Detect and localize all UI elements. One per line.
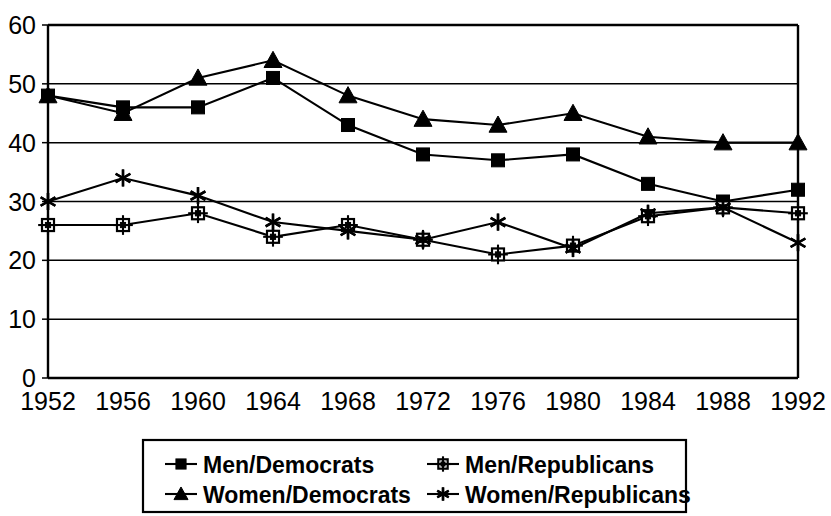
data-point <box>791 234 806 251</box>
marker-filled-square <box>567 148 580 161</box>
marker-filled-square <box>642 177 655 190</box>
data-point <box>264 51 282 67</box>
data-point <box>792 183 805 196</box>
x-tick-label: 1960 <box>170 387 226 415</box>
marker-filled-square <box>342 119 355 132</box>
marker-filled-square <box>267 71 280 84</box>
marker-star <box>491 214 506 231</box>
x-tick-label: 1964 <box>245 387 301 415</box>
marker-filled-square <box>792 183 805 196</box>
y-tick-label: 20 <box>8 246 36 274</box>
series-line <box>48 60 798 142</box>
data-point <box>339 87 357 103</box>
marker-star <box>116 169 131 186</box>
marker-filled-square <box>176 459 186 469</box>
marker-open-square-dot <box>435 456 450 471</box>
y-tick-label: 50 <box>8 70 36 98</box>
data-point <box>642 177 655 190</box>
marker-filled-square <box>492 154 505 167</box>
line-chart-svg: 0102030405060 19521956196019641968197219… <box>0 0 831 516</box>
data-point <box>491 214 506 231</box>
marker-open-square-dot <box>188 203 208 223</box>
x-tick-label: 1956 <box>95 387 151 415</box>
x-tick-label: 1972 <box>395 387 451 415</box>
data-point <box>267 71 280 84</box>
series-women-republicans <box>41 169 806 257</box>
x-tick-label: 1952 <box>20 387 76 415</box>
chart-container: 0102030405060 19521956196019641968197219… <box>0 0 831 516</box>
data-point <box>492 154 505 167</box>
y-tick-label: 30 <box>8 188 36 216</box>
marker-open-square-dot <box>488 245 508 265</box>
marker-open-square-dot <box>788 203 808 223</box>
marker-open-square-dot <box>113 215 133 235</box>
marker-filled-square <box>192 101 205 114</box>
data-point <box>38 215 58 235</box>
data-point <box>564 104 582 120</box>
marker-filled-square <box>417 148 430 161</box>
data-point <box>788 203 808 223</box>
x-tick-label: 1992 <box>770 387 826 415</box>
marker-filled-triangle <box>264 51 282 67</box>
x-tick-label: 1988 <box>695 387 751 415</box>
legend-label: Women/Republicans <box>465 482 691 508</box>
x-tick-label: 1984 <box>620 387 676 415</box>
marker-filled-triangle <box>564 104 582 120</box>
x-tick-label: 1980 <box>545 387 601 415</box>
y-tick-label: 40 <box>8 129 36 157</box>
series-men-republicans <box>38 198 808 265</box>
x-tick-label: 1976 <box>470 387 526 415</box>
marker-star <box>791 234 806 251</box>
gridlines-group <box>48 25 798 378</box>
chart-legend: Men/DemocratsMen/RepublicansWomen/Democr… <box>143 440 691 512</box>
data-point <box>192 101 205 114</box>
marker-filled-triangle <box>339 87 357 103</box>
x-tick-label: 1968 <box>320 387 376 415</box>
data-point <box>116 169 131 186</box>
series-women-democrats <box>39 51 807 150</box>
y-tick-label: 10 <box>8 305 36 333</box>
data-point <box>188 203 208 223</box>
legend-label: Men/Democrats <box>203 452 374 478</box>
y-axis-tick-labels: 0102030405060 <box>8 11 36 392</box>
data-point <box>113 215 133 235</box>
legend-label: Men/Republicans <box>465 452 654 478</box>
legend-entry-women-republicans[interactable]: Women/Republicans <box>427 482 691 508</box>
legend-label: Women/Democrats <box>203 482 411 508</box>
data-point <box>417 148 430 161</box>
data-point <box>567 148 580 161</box>
x-axis-tick-labels: 1952195619601964196819721976198019841988… <box>20 387 826 415</box>
marker-open-square-dot <box>38 215 58 235</box>
y-tick-label: 60 <box>8 11 36 39</box>
data-point <box>488 245 508 265</box>
data-point <box>342 119 355 132</box>
